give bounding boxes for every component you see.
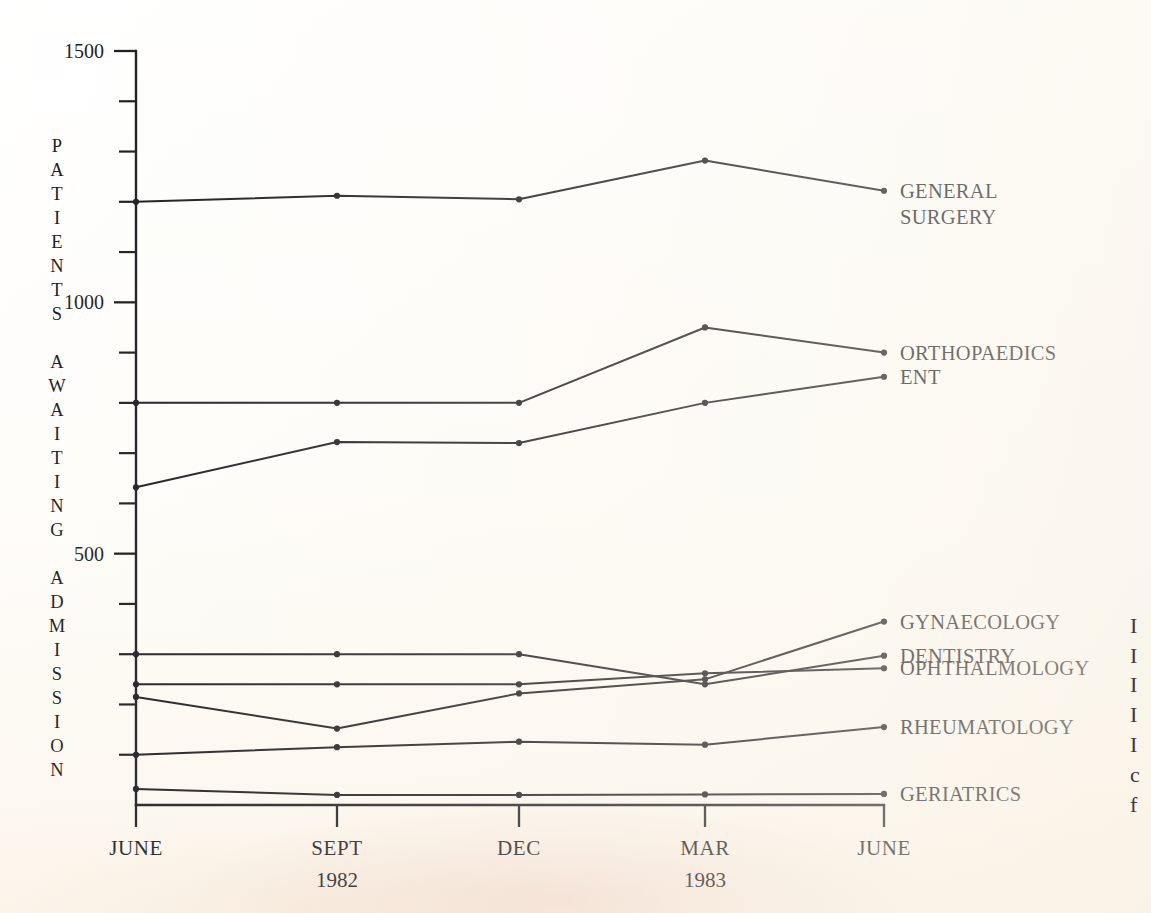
x-tick-year-label: 1983 bbox=[684, 868, 726, 892]
series-label: GERIATRICS bbox=[900, 783, 1021, 805]
series-line bbox=[136, 161, 884, 202]
y-tick-label: 1500 bbox=[64, 40, 104, 62]
y-axis-title-letter: I bbox=[54, 640, 60, 660]
data-point bbox=[702, 681, 708, 687]
y-axis-title-letter: O bbox=[50, 736, 63, 756]
series-line bbox=[136, 377, 884, 488]
y-axis-title-letter: S bbox=[52, 664, 62, 684]
line-chart: 50010001500 JUNESEPT1982DECMAR1983JUNE G… bbox=[0, 0, 1151, 913]
data-point bbox=[702, 157, 708, 163]
series-label: GYNAECOLOGY bbox=[900, 611, 1060, 633]
series-line bbox=[136, 727, 884, 755]
data-point bbox=[702, 324, 708, 330]
data-point bbox=[133, 400, 139, 406]
data-point bbox=[334, 681, 340, 687]
data-point bbox=[133, 786, 139, 792]
data-point bbox=[702, 670, 708, 676]
y-axis-title-letter: N bbox=[50, 256, 63, 276]
data-point bbox=[133, 681, 139, 687]
data-point bbox=[516, 690, 522, 696]
y-tick-label: 500 bbox=[74, 543, 104, 565]
series-label: OPHTHALMOLOGY bbox=[900, 657, 1090, 679]
data-point bbox=[881, 791, 887, 797]
data-point bbox=[334, 439, 340, 445]
data-point bbox=[881, 665, 887, 671]
y-axis-title: PATIENTSAWAITINGADMISSION bbox=[48, 136, 66, 780]
y-axis-title-letter: I bbox=[54, 208, 60, 228]
y-axis-title-letter: A bbox=[50, 568, 64, 588]
data-point bbox=[881, 374, 887, 380]
data-point bbox=[881, 724, 887, 730]
data-point bbox=[133, 484, 139, 490]
data-point bbox=[334, 792, 340, 798]
series-labels: GENERALSURGERYORTHOPAEDICSENTGYNAECOLOGY… bbox=[900, 180, 1090, 805]
data-point bbox=[133, 651, 139, 657]
data-point bbox=[702, 791, 708, 797]
data-point bbox=[516, 440, 522, 446]
x-tick-label: JUNE bbox=[109, 836, 163, 860]
y-axis-title-letter: A bbox=[50, 352, 64, 372]
series-label: RHEUMATOLOGY bbox=[900, 716, 1074, 738]
x-tick-label: MAR bbox=[680, 836, 730, 860]
series-line bbox=[136, 789, 884, 795]
data-point bbox=[516, 792, 522, 798]
series-lines bbox=[133, 157, 887, 798]
data-point bbox=[334, 193, 340, 199]
data-point bbox=[334, 744, 340, 750]
y-axis-title-letter: N bbox=[50, 760, 63, 780]
x-tick-label: JUNE bbox=[857, 836, 911, 860]
data-point bbox=[516, 196, 522, 202]
data-point bbox=[334, 400, 340, 406]
y-axis-title-letter: I bbox=[54, 472, 60, 492]
series-label: ENT bbox=[900, 366, 941, 388]
y-tick-label: 1000 bbox=[64, 291, 104, 313]
data-point bbox=[516, 651, 522, 657]
series-label: SURGERY bbox=[900, 206, 997, 228]
y-axis-title-letter: A bbox=[50, 160, 64, 180]
data-point bbox=[133, 199, 139, 205]
data-point bbox=[702, 400, 708, 406]
data-point bbox=[881, 350, 887, 356]
x-tick-year-label: 1982 bbox=[316, 868, 358, 892]
x-tick-label: SEPT bbox=[311, 836, 362, 860]
y-axis-title-letter: T bbox=[51, 448, 62, 468]
series-label: ORTHOPAEDICS bbox=[900, 342, 1057, 364]
data-point bbox=[881, 188, 887, 194]
series-line bbox=[136, 622, 884, 729]
data-point bbox=[516, 739, 522, 745]
y-axis-title-letter: M bbox=[49, 616, 65, 636]
y-axis-title-letter: N bbox=[50, 496, 63, 516]
y-axis-title-letter: T bbox=[51, 184, 62, 204]
series-label: GENERAL bbox=[900, 180, 998, 202]
y-axis-title-letter: G bbox=[50, 520, 63, 540]
data-point bbox=[133, 694, 139, 700]
chart-page: 50010001500 JUNESEPT1982DECMAR1983JUNE G… bbox=[0, 0, 1151, 913]
data-point bbox=[516, 681, 522, 687]
x-tick-label: DEC bbox=[497, 836, 541, 860]
y-axis-title-letter: T bbox=[51, 280, 62, 300]
y-axis-title-letter: E bbox=[51, 232, 62, 252]
x-axis: JUNESEPT1982DECMAR1983JUNE bbox=[109, 805, 911, 892]
y-axis: 50010001500 bbox=[64, 40, 136, 805]
data-point bbox=[516, 400, 522, 406]
data-point bbox=[334, 725, 340, 731]
data-point bbox=[334, 651, 340, 657]
series-line bbox=[136, 668, 884, 684]
data-point bbox=[133, 752, 139, 758]
series-line bbox=[136, 327, 884, 402]
y-axis-title-letter: S bbox=[52, 688, 62, 708]
data-point bbox=[881, 653, 887, 659]
data-point bbox=[702, 742, 708, 748]
y-axis-title-letter: I bbox=[54, 424, 60, 444]
y-axis-title-letter: S bbox=[52, 304, 62, 324]
y-axis-title-letter: D bbox=[50, 592, 63, 612]
y-axis-title-letter: P bbox=[52, 136, 62, 156]
y-axis-title-letter: A bbox=[50, 400, 64, 420]
data-point bbox=[881, 618, 887, 624]
y-axis-title-letter: I bbox=[54, 712, 60, 732]
y-axis-title-letter: W bbox=[48, 376, 66, 396]
